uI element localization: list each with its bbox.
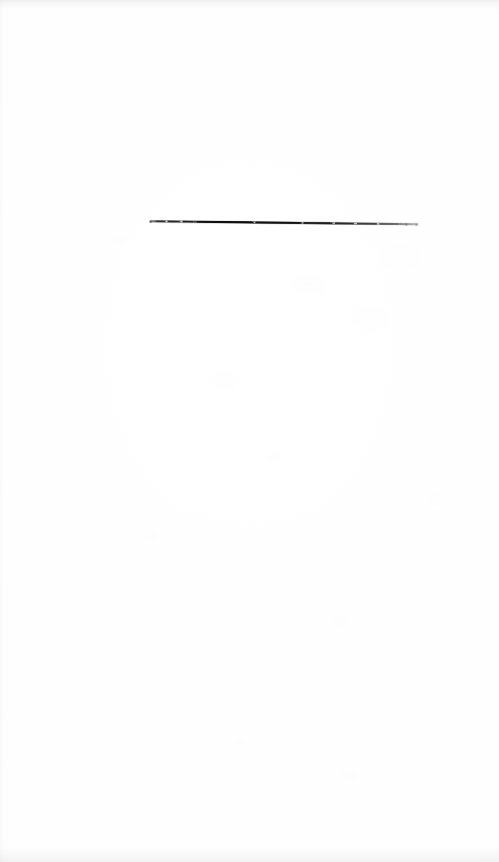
scanned-page (0, 0, 499, 862)
paper-background (0, 0, 499, 862)
